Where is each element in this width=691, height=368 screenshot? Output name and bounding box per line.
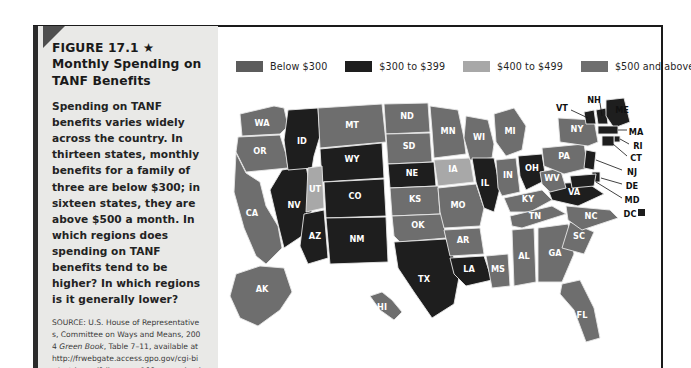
state-md[interactable] (570, 174, 596, 188)
state-label-ar: AR (457, 235, 470, 245)
leader-line-ct (613, 144, 627, 156)
state-label-ut: UT (309, 184, 322, 194)
state-label-mo: MO (450, 200, 465, 210)
state-label-ri: RI (633, 141, 642, 151)
state-label-ma: MA (629, 127, 644, 137)
state-label-nj: NJ (627, 167, 637, 177)
state-label-ky: KY (522, 194, 535, 204)
figure-title: FIGURE 17.1 ★ Monthly Spending on TANF B… (52, 40, 204, 89)
state-label-in: IN (503, 170, 513, 180)
legend-swatch-300-399 (345, 61, 372, 72)
state-label-mn: MN (441, 126, 456, 136)
state-label-me: ME (615, 105, 629, 115)
legend-item-400-499: $400 to $499 (463, 61, 563, 72)
state-label-de: DE (626, 181, 638, 191)
state-label-md: MD (625, 195, 640, 205)
source-italic-title: Green Book (59, 342, 103, 351)
legend-label-300-399: $300 to $399 (379, 61, 445, 72)
figure-title-line2: Monthly Spending on (52, 57, 201, 71)
state-label-wy: WY (345, 154, 361, 164)
state-label-fl: FL (577, 310, 588, 320)
leader-line-nj (596, 160, 622, 170)
state-label-nd: ND (400, 111, 414, 121)
state-label-ok: OK (411, 220, 425, 230)
state-label-la: LA (463, 264, 475, 274)
state-label-ne: NE (406, 168, 418, 178)
state-label-id: ID (297, 136, 307, 146)
state-ma[interactable] (598, 126, 618, 134)
state-label-al: AL (518, 251, 530, 261)
state-label-tx: TX (418, 274, 431, 284)
state-label-dc: DC (624, 209, 637, 219)
state-label-mi: MI (504, 126, 515, 136)
state-label-mt: MT (345, 120, 359, 130)
state-label-oh: OH (525, 163, 539, 173)
state-ri[interactable] (614, 136, 620, 142)
state-ak[interactable] (230, 266, 292, 326)
figure-caption-body: Spending on TANF benefits varies widely … (52, 98, 204, 307)
state-label-va: VA (568, 187, 581, 197)
state-label-vt: VT (556, 103, 568, 113)
state-label-il: IL (481, 178, 489, 188)
legend-item-300-399: $300 to $399 (345, 61, 445, 72)
state-label-ny: NY (571, 124, 585, 134)
figure-source-note: SOURCE: U.S. House of Representatives, C… (52, 317, 204, 368)
legend-label-500-above: $500 and above (615, 61, 691, 72)
state-label-wi: WI (473, 132, 485, 142)
state-label-tn: TN (529, 211, 542, 221)
legend-swatch-400-499 (463, 61, 490, 72)
legend-label-below-300: Below $300 (270, 61, 327, 72)
state-label-nv: NV (287, 200, 301, 210)
state-label-wa: WA (255, 118, 271, 128)
state-label-ia: IA (448, 164, 458, 174)
figure-caption-panel: FIGURE 17.1 ★ Monthly Spending on TANF B… (33, 26, 218, 368)
leader-line-de (601, 178, 622, 184)
state-label-ct: CT (630, 153, 642, 163)
legend-swatch-below-300 (236, 61, 263, 72)
state-label-co: CO (349, 191, 362, 201)
state-label-or: OR (253, 146, 267, 156)
state-label-nh: NH (587, 96, 601, 105)
state-label-ms: MS (491, 264, 505, 274)
figure-number: FIGURE 17.1 ★ (52, 41, 154, 55)
state-label-nm: NM (350, 234, 365, 244)
state-label-nc: NC (585, 211, 598, 221)
state-label-pa: PA (558, 151, 570, 161)
figure-title-line3: TANF Benefits (52, 74, 151, 88)
state-ct[interactable] (602, 136, 614, 146)
legend-item-below-300: Below $300 (236, 61, 327, 72)
state-label-ks: KS (409, 194, 421, 204)
map-legend: Below $300 $300 to $399 $400 to $499 $50… (236, 61, 691, 72)
state-label-sd: SD (403, 141, 416, 151)
dc-marker[interactable] (638, 209, 645, 216)
map-svg: WAORCANVIDMTWYUTCOAZNMNDSDNEKSOKTXMNIAMO… (222, 96, 663, 368)
leader-line-ri (620, 139, 629, 144)
legend-label-400-499: $400 to $499 (497, 61, 563, 72)
us-choropleth-map: WAORCANVIDMTWYUTCOAZNMNDSDNEKSOKTXMNIAMO… (222, 96, 663, 368)
state-label-wv: WV (544, 173, 560, 183)
state-label-sc: SC (573, 231, 585, 241)
state-label-ca: CA (246, 208, 259, 218)
state-label-az: AZ (309, 231, 321, 241)
legend-swatch-500-above (581, 61, 608, 72)
state-label-ak: AK (256, 284, 269, 294)
state-label-hi: HI (377, 302, 387, 312)
state-nj[interactable] (584, 150, 596, 170)
state-label-ga: GA (548, 248, 562, 258)
legend-item-500-above: $500 and above (581, 61, 691, 72)
